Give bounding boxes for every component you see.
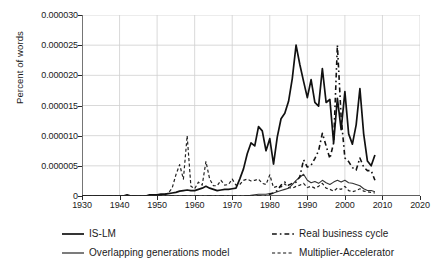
plot-area (82, 15, 420, 196)
x-tick-mark (82, 196, 83, 200)
x-tick-mark (382, 196, 383, 200)
series-line-overlapping-generations-model (82, 174, 375, 196)
x-tick-label: 1940 (110, 200, 130, 210)
legend-item-multiplier-accelerator[interactable]: Multiplier-Accelerator (272, 248, 394, 258)
y-tick-label: 0.000030 (41, 10, 78, 20)
x-tick-label: 1930 (72, 200, 92, 210)
series-plot (82, 15, 420, 196)
x-tick-mark (270, 196, 271, 200)
x-tick-mark (345, 196, 346, 200)
y-tick-label: 0.000005 (41, 161, 78, 171)
legend-row: Overlapping generations modelMultiplier-… (0, 243, 448, 262)
legend-label: Real business cycle (299, 229, 388, 239)
x-tick-label: 1980 (260, 200, 280, 210)
x-tick-label: 1960 (185, 200, 205, 210)
series-line-is-lm (82, 45, 375, 196)
legend-swatch-dashdot (272, 229, 294, 239)
legend-label: Multiplier-Accelerator (299, 248, 394, 258)
y-tick-label: 0.000015 (41, 101, 78, 111)
y-tick-label: 0.000010 (41, 131, 78, 141)
legend-item-overlapping-generations-model[interactable]: Overlapping generations model (62, 248, 229, 258)
grid-lines (82, 15, 420, 196)
x-tick-label: 1990 (298, 200, 318, 210)
legend-swatch-solid (62, 229, 84, 239)
legend-swatch-dashed (272, 248, 294, 258)
x-tick-label: 2000 (335, 200, 355, 210)
x-tick-mark (307, 196, 308, 200)
y-tick-label: 0.000025 (41, 40, 78, 50)
x-tick-label: 1970 (222, 200, 242, 210)
legend-item-is-lm[interactable]: IS-LM (62, 229, 116, 239)
x-tick-mark (232, 196, 233, 200)
y-tick-label: 0.000020 (41, 70, 78, 80)
x-tick-mark (195, 196, 196, 200)
x-tick-mark (420, 196, 421, 200)
x-tick-mark (157, 196, 158, 200)
legend-swatch-solid (62, 248, 84, 258)
legend-label: Overlapping generations model (89, 248, 229, 258)
chart-legend: IS-LMReal business cycleOverlapping gene… (0, 224, 448, 265)
legend-item-real-business-cycle[interactable]: Real business cycle (272, 229, 388, 239)
x-tick-label: 2020 (410, 200, 430, 210)
chart-container: Percent of words 00.0000050.0000100.0000… (0, 0, 448, 265)
x-tick-mark (120, 196, 121, 200)
legend-row: IS-LMReal business cycle (0, 224, 448, 243)
x-tick-label: 1950 (147, 200, 167, 210)
legend-label: IS-LM (89, 229, 116, 239)
x-tick-label: 2010 (373, 200, 393, 210)
